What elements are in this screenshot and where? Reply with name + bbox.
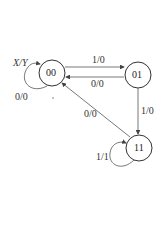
transition-00-00 [24, 63, 47, 89]
transition-11-11 [110, 142, 134, 166]
transition-00-00-label: 0/0 [15, 92, 28, 102]
transition-00-01-label: 1/0 [92, 55, 105, 65]
transition-11-11-label: 1/1 [96, 152, 109, 162]
legend-label: X/Y [13, 58, 27, 68]
state-01-label: 01 [132, 70, 142, 80]
state-11-label: 11 [134, 143, 144, 153]
state-00-label: 00 [46, 68, 56, 78]
transition-01-11-label: 1/0 [141, 106, 154, 116]
transition-01-00-label: 0/0 [91, 79, 104, 89]
transition-11-00-label: 0/0 [84, 109, 97, 119]
